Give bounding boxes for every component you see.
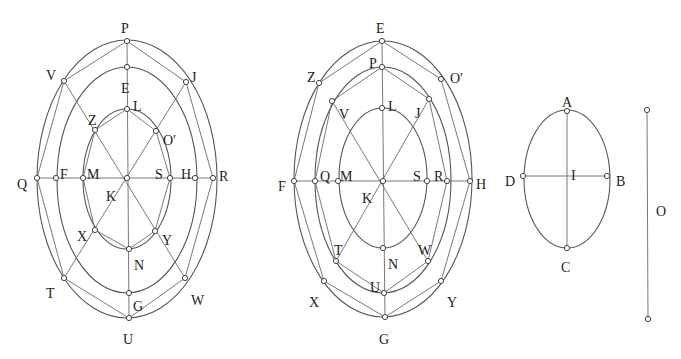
point-f	[53, 175, 58, 180]
figures-layer: PELVJZO′QFMKSHRXYNTWGUEPLZO′VJFQMKSRHTWN…	[17, 21, 666, 347]
label-k: K	[362, 191, 372, 206]
label-p: P	[121, 21, 129, 36]
point-g	[126, 290, 131, 295]
label-s: S	[413, 169, 421, 184]
point-p	[379, 64, 384, 69]
figure-1: PELVJZO′QFMKSHRXYNTWGU	[17, 21, 229, 347]
point-n	[126, 246, 131, 251]
label-j: J	[191, 70, 197, 85]
label-h: H	[476, 177, 486, 192]
point-e	[379, 38, 384, 43]
label-e: E	[376, 21, 385, 36]
label-g: G	[133, 299, 143, 314]
point-n	[380, 245, 385, 250]
label-x: X	[309, 295, 319, 310]
label-s: S	[155, 167, 163, 182]
point-m	[80, 175, 85, 180]
endpoint-dot	[645, 316, 650, 321]
label-f: F	[60, 167, 68, 182]
label-w: W	[418, 243, 432, 258]
label-j: J	[415, 106, 421, 121]
label-y: Y	[162, 233, 172, 248]
point-w	[425, 258, 430, 263]
label-i: I	[571, 168, 576, 183]
label-u: U	[123, 332, 133, 347]
label-z: Z	[88, 113, 97, 128]
label-h: H	[181, 167, 191, 182]
point-j	[183, 79, 188, 84]
figure-4: O	[644, 107, 666, 321]
segment-o	[647, 110, 648, 319]
point-u	[126, 315, 131, 320]
point-l	[124, 106, 129, 111]
label-q: Q	[320, 169, 330, 184]
point-l	[379, 105, 384, 110]
label-a: A	[562, 95, 573, 110]
point-y	[438, 278, 443, 283]
point-s	[167, 175, 172, 180]
label-y: Y	[447, 295, 457, 310]
label-f: F	[278, 179, 286, 194]
label-v: V	[46, 68, 56, 83]
label-u: U	[370, 280, 380, 295]
label-k: K	[106, 189, 116, 204]
point-z	[92, 127, 97, 132]
label-o-prime: O′	[450, 71, 463, 86]
figure-3: ACDBI	[505, 95, 625, 275]
label-n: N	[134, 258, 144, 273]
label-m: M	[340, 169, 353, 184]
point-f	[291, 178, 296, 183]
segment-l-z	[95, 109, 127, 130]
geometry-diagram: PELVJZO′QFMKSHRXYNTWGUEPLZO′VJFQMKSRHTWN…	[0, 0, 681, 359]
label-b: B	[616, 174, 625, 189]
point-x	[92, 227, 97, 232]
label-q: Q	[17, 177, 27, 192]
point-t	[333, 258, 338, 263]
point-o-prime	[153, 128, 158, 133]
point-u	[381, 290, 386, 295]
label-e: E	[121, 81, 130, 96]
point-h	[467, 178, 472, 183]
point-c	[564, 245, 569, 250]
label-o: O	[656, 204, 666, 219]
point-r	[444, 178, 449, 183]
segment-q-t	[37, 178, 64, 278]
segment-f-x	[294, 181, 324, 281]
label-r: R	[434, 169, 444, 184]
label-w: W	[191, 293, 205, 308]
point-k	[124, 175, 129, 180]
point-z	[316, 80, 321, 85]
label-g: G	[379, 332, 389, 347]
label-v: V	[339, 107, 349, 122]
segment-x-n	[95, 230, 129, 249]
label-p: P	[369, 56, 377, 71]
point-t	[61, 275, 66, 280]
segment-q-t	[315, 181, 336, 261]
point-v	[329, 98, 334, 103]
label-d: D	[505, 174, 515, 189]
segment-v-q	[37, 81, 64, 178]
label-r: R	[219, 169, 229, 184]
figure-2: EPLZO′VJFQMKSRHTWNXYUG	[278, 21, 486, 347]
point-v	[61, 78, 66, 83]
point-o-prime	[438, 76, 443, 81]
point-p	[124, 38, 129, 43]
point-h	[192, 175, 197, 180]
point-s	[424, 178, 429, 183]
label-x: X	[77, 229, 87, 244]
label-l: L	[133, 99, 142, 114]
point-y	[152, 228, 157, 233]
segment-y-n	[129, 231, 155, 249]
point-g	[382, 314, 387, 319]
segment-p-v	[332, 67, 382, 101]
endpoint-dot	[644, 107, 649, 112]
label-l: L	[388, 99, 397, 114]
point-r	[210, 175, 215, 180]
label-t: T	[46, 286, 55, 301]
point-b	[604, 173, 609, 178]
segment-m-x	[83, 178, 95, 230]
segment-p-j	[382, 67, 429, 99]
label-t: T	[334, 243, 343, 258]
point-j	[426, 96, 431, 101]
segment-t-u	[64, 278, 129, 318]
